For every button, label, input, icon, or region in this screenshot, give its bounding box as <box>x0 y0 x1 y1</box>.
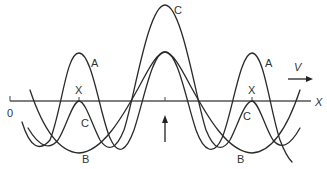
up-arrow-icon <box>162 115 168 123</box>
label-a-right: A <box>265 57 273 69</box>
label-x-left: X <box>75 84 83 96</box>
label-x-right: X <box>248 84 256 96</box>
label-c-top: C <box>174 4 182 16</box>
origin-label: 0 <box>7 107 13 119</box>
wave-diagram: 0 X A A C C C B B X X V <box>0 0 327 169</box>
curve-a <box>22 52 292 162</box>
velocity-arrow-icon <box>306 76 313 82</box>
label-a-left: A <box>91 57 99 69</box>
velocity-label: V <box>294 61 303 73</box>
axis-label-x: X <box>314 96 323 108</box>
label-c-left: C <box>81 117 89 129</box>
label-b-right: B <box>237 153 244 165</box>
curve-c <box>28 5 300 147</box>
label-c-right: C <box>243 110 251 122</box>
label-b-left: B <box>82 153 89 165</box>
